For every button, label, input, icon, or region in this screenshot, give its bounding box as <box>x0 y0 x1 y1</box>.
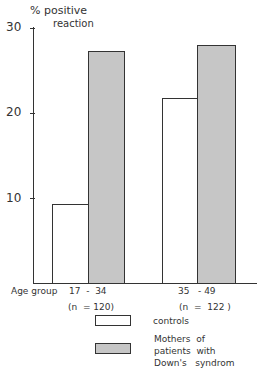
legend-label-downs-3: Down's syndrom <box>154 358 234 368</box>
x-axis <box>33 283 257 284</box>
y-axis-label-line2: reaction <box>53 19 94 29</box>
legend-label-controls: controls <box>153 316 189 326</box>
y-tick-10: 10 <box>6 191 30 205</box>
y-tick-20: 20 <box>6 105 30 119</box>
bar-downs-35-49 <box>197 45 236 284</box>
legend-swatch-downs <box>95 343 131 354</box>
bar-downs-17-34 <box>88 51 125 284</box>
category-label-35-49: 35 - 49 <box>178 286 216 296</box>
legend-label-downs-2: patients with <box>154 346 216 356</box>
bar-controls-35-49 <box>162 98 199 284</box>
category-label-17-34: 17 - 34 <box>69 286 107 296</box>
y-tick-30: 30 <box>6 20 30 34</box>
x-axis-label: Age group <box>11 286 57 296</box>
legend-swatch-controls <box>95 315 131 326</box>
bar-controls-17-34 <box>52 204 89 284</box>
y-axis <box>33 27 34 283</box>
category-n-35-49: (n = 122 ) <box>179 302 231 312</box>
legend-label-downs-1: Mothers of <box>154 334 205 344</box>
y-axis-label-line1: % positive <box>30 6 87 16</box>
category-n-17-34: (n = 120) <box>68 302 114 312</box>
